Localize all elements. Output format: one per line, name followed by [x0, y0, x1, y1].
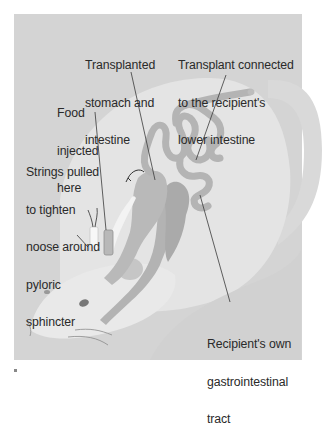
label-transplant-connected: Transplant connected to the recipient's …: [178, 34, 294, 172]
label-strings-pulled: Strings pulled to tighten noose around p…: [26, 141, 100, 354]
food-injection-port: [104, 230, 113, 255]
figure-corner-mark: [14, 369, 17, 372]
label-recipient-gi-tract: Recipient's own gastrointestinal tract: [207, 313, 291, 427]
